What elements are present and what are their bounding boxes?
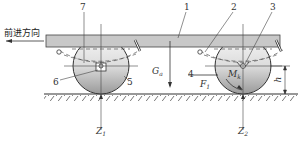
part-number-1: 1: [184, 3, 190, 12]
part-number-3: 3: [270, 3, 276, 12]
traction-label: F1: [200, 80, 210, 90]
part-number-7: 7: [80, 3, 86, 12]
ground: [44, 94, 298, 101]
frame-beam: [46, 35, 280, 47]
rear-shackle-left: [198, 50, 202, 54]
front-normal-label: Z1: [96, 127, 106, 137]
direction-arrow: [6, 39, 44, 43]
rear-normal-label: Z2: [238, 127, 248, 137]
gravity-arrow: [168, 41, 172, 88]
front-shackle-left: [57, 50, 61, 54]
direction-label: 前进方向: [4, 29, 40, 38]
part-number-4: 4: [188, 70, 194, 79]
part-number-5: 5: [127, 78, 133, 87]
part-number-6: 6: [53, 78, 59, 87]
gravity-label: Ga: [152, 67, 163, 77]
height-label: h: [274, 77, 283, 83]
part-number-2: 2: [231, 3, 237, 12]
moment-label: Mk: [228, 70, 241, 80]
